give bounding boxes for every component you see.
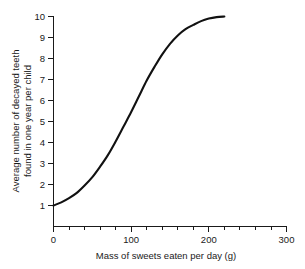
x-axis-title: Mass of sweets eaten per day (g) [96,250,236,261]
y-tick-label: 1 [40,200,45,211]
y-tick-label: 3 [40,158,45,169]
x-tick-label: 300 [279,234,295,245]
chart-figure: 1 2 3 4 5 6 7 8 9 10 [0,0,305,269]
y-tick-label: 4 [40,137,45,148]
y-tick-label: 7 [40,74,45,85]
y-tick-label: 8 [40,53,45,64]
y-tick-label: 5 [40,116,45,127]
y-tick-label: 9 [40,32,45,43]
x-tick-label: 100 [123,234,139,245]
y-tick-label: 6 [40,95,45,106]
y-axis-title-line1: Average number of decayed teeth [10,50,21,193]
chart-background [0,0,305,269]
y-axis-title-line2: found in one year per child [22,65,33,177]
x-tick-label: 0 [51,234,56,245]
chart-svg: 1 2 3 4 5 6 7 8 9 10 [0,0,305,269]
y-tick-label: 10 [34,11,45,22]
y-tick-label: 2 [40,179,45,190]
x-tick-label: 200 [201,234,217,245]
